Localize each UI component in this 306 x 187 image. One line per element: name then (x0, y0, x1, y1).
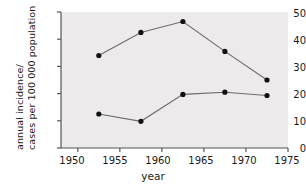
chart-figure: annual incidence/ cases per 100 000 popu… (0, 0, 306, 187)
data-point-females-1967.5 (222, 49, 227, 54)
plot-canvas (0, 0, 306, 187)
x-axis-ticks (78, 148, 288, 152)
data-point-males-1967.5 (222, 90, 227, 95)
data-point-males-1972.5 (264, 93, 269, 98)
plot-background (61, 12, 288, 148)
data-point-females-1957.5 (138, 30, 143, 35)
data-point-females-1972.5 (264, 77, 269, 82)
data-point-females-1962.5 (180, 19, 185, 24)
data-point-males-1957.5 (138, 119, 143, 124)
data-point-males-1952.5 (96, 111, 101, 116)
data-point-females-1952.5 (96, 53, 101, 58)
data-point-males-1962.5 (180, 92, 185, 97)
